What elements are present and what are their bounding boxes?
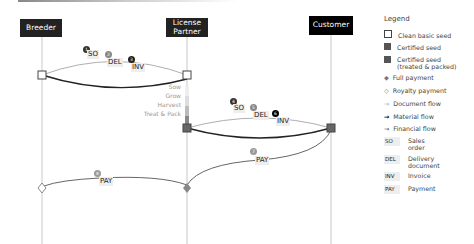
- legend-item: →Document flow: [384, 100, 441, 107]
- certified-seed-icon: [384, 43, 391, 50]
- doc-tag: INV: [276, 117, 290, 126]
- legend-item: Clean basic seed: [384, 30, 451, 39]
- legend-item: →Financial flow: [384, 125, 436, 132]
- actor-customer: Customer: [309, 16, 353, 35]
- phase-label: Sow: [137, 83, 181, 90]
- doc-tag: PAY: [255, 156, 269, 165]
- full-payment-icon: ◆: [384, 74, 389, 81]
- actor-breeder: Breeder: [20, 19, 62, 37]
- phase-label: Harvest: [137, 101, 181, 108]
- doc-tag: DEL: [253, 111, 269, 120]
- doc-tag: SO: [87, 50, 99, 59]
- step-badge: 7: [250, 148, 257, 155]
- royalty-payment-icon: ◇: [384, 87, 389, 94]
- abbr-item: INVInvoice: [384, 172, 431, 181]
- phase-label: Treat & Pack: [137, 110, 181, 117]
- doc-tag: PAY: [99, 177, 113, 186]
- abbr-item: SOSales order: [384, 137, 464, 151]
- legend-title: Legend: [384, 15, 410, 23]
- step-badge: 6: [272, 110, 279, 117]
- phase-label: Grow: [137, 92, 181, 99]
- step-badge: 5: [250, 104, 257, 111]
- step-badge: 2: [105, 51, 112, 58]
- legend-item: Certified seed: [384, 43, 441, 51]
- material-flow-icon: →: [384, 113, 389, 120]
- certified-seed-treated-icon: [384, 56, 391, 63]
- legend-item: ◇Royalty payment: [384, 87, 446, 94]
- clean-basic-seed-icon: [384, 30, 392, 38]
- abbr-item: DELDelivery document: [384, 155, 464, 169]
- legend-item: →Material flow: [384, 113, 434, 120]
- doc-tag: INV: [131, 63, 145, 72]
- financial-flow-icon: →: [384, 125, 389, 132]
- step-badge: 8: [94, 170, 101, 177]
- actor-license-partner: License Partner: [166, 18, 208, 37]
- abbr-item: PAYPayment: [384, 185, 436, 194]
- doc-tag: SO: [233, 104, 245, 113]
- legend-item: ◆Full payment: [384, 74, 434, 81]
- doc-tag: DEL: [107, 58, 123, 67]
- document-flow-icon: →: [384, 100, 389, 107]
- legend-item: Certified seed (treated & packed): [384, 56, 466, 70]
- step-badge: 3: [128, 56, 135, 63]
